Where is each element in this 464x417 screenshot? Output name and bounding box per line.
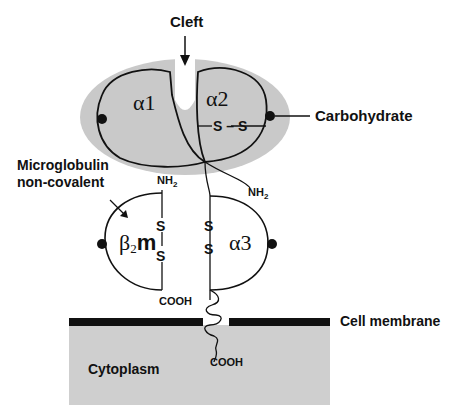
- nh2-b2m-label: NH2: [157, 174, 178, 189]
- s-alpha3-bottom: S: [204, 241, 213, 257]
- nh2-chain-label: NH2: [248, 186, 269, 201]
- s-b2m-bottom: S: [156, 248, 165, 264]
- microglobulin-label-1: Microglobulin: [17, 157, 109, 173]
- alpha3-label: α3: [229, 230, 252, 255]
- s-alpha3-top: S: [204, 218, 213, 234]
- b2m-label: β2m: [119, 230, 156, 256]
- diagram-labels: Cleft α1 α2 S – S Carbohydrate Microglob…: [0, 0, 464, 417]
- cooh-b2m-label: COOH: [159, 295, 192, 307]
- microglobulin-label-2: non-covalent: [17, 174, 104, 190]
- cooh-tail-label: COOH: [210, 356, 243, 368]
- cytoplasm-label: Cytoplasm: [88, 361, 160, 377]
- carbohydrate-label: Carbohydrate: [315, 107, 413, 124]
- cleft-label: Cleft: [170, 13, 203, 30]
- alpha2-label: α2: [206, 86, 229, 111]
- alpha1-label: α1: [133, 90, 156, 115]
- cell-membrane-label: Cell membrane: [340, 313, 441, 329]
- s-b2m-top: S: [156, 218, 165, 234]
- disulfide-alpha2: S – S: [213, 118, 247, 134]
